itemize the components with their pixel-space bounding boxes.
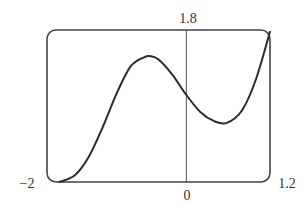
x-origin-label: 0 <box>184 188 191 203</box>
y-max-label: 1.8 <box>179 11 197 26</box>
x-max-label: 1.2 <box>278 176 296 191</box>
x-min-label: −2 <box>20 176 35 191</box>
viewing-window-frame <box>47 30 270 182</box>
function-graph: 1.8 −2 1.2 0 <box>0 0 301 206</box>
function-curve <box>60 32 270 182</box>
